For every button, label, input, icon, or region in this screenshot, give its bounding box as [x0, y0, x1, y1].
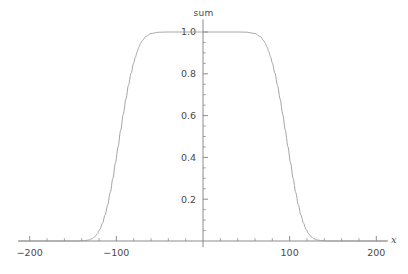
y-tick-label: 0.6 — [181, 110, 196, 121]
chart-canvas: −200−100100200 0.20.40.60.81.0 — [0, 0, 408, 274]
y-tick-label: 0.4 — [181, 152, 196, 163]
x-tick-label: −100 — [103, 247, 129, 258]
y-axis-tick-labels: 0.20.40.60.81.0 — [181, 26, 196, 204]
x-tick-label: 100 — [281, 247, 299, 258]
y-tick-label: 0.8 — [181, 68, 196, 79]
x-axis-tick-labels: −200−100100200 — [17, 247, 386, 258]
x-tick-label: −200 — [17, 247, 43, 258]
y-tick-label: 0.2 — [181, 194, 196, 205]
chart-plot-area: sum x −200−100100200 0.20.40.60.81.0 — [0, 0, 408, 274]
x-tick-label: 200 — [367, 247, 385, 258]
y-axis-ticks — [203, 32, 208, 231]
